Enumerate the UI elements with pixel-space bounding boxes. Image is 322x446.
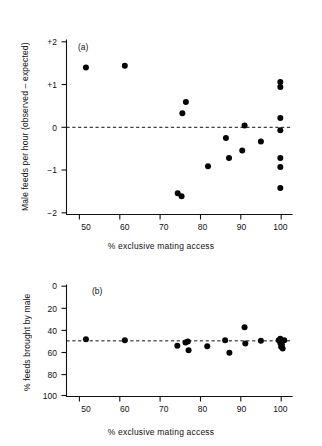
svg-text:60: 60 [120,404,130,414]
panel-a: Male feeds per hour (observed – expected… [0,0,322,255]
svg-text:20: 20 [48,304,58,314]
panel-a-y-tick-labels: +2 +1 0 −1 −2 [47,37,57,218]
data-point [174,343,180,349]
panel-b-x-axis-label: % exclusive mating access [0,427,322,437]
data-point [277,84,283,90]
data-point [185,338,191,344]
panel-b: % feeds brought by male [0,265,322,446]
panel-a-tag: (a) [78,42,89,52]
svg-text:70: 70 [159,404,169,414]
data-point [242,123,248,129]
data-point [122,63,128,69]
data-point [226,155,232,161]
svg-text:100: 100 [273,404,287,414]
svg-text:0: 0 [52,123,57,133]
data-point [205,163,211,169]
data-point [122,337,128,343]
svg-text:−2: −2 [47,208,57,218]
svg-text:−1: −1 [47,165,57,175]
data-point [242,341,248,347]
panel-b-x-tick-labels: 50 60 70 80 90 100 [81,404,287,414]
panel-a-x-axis-label: % exclusive mating access [0,241,322,251]
data-point [277,115,283,121]
data-point [83,64,89,70]
data-point [258,138,264,144]
svg-text:+1: +1 [47,80,57,90]
data-point [179,193,185,199]
svg-text:60: 60 [120,222,130,232]
data-point [223,135,229,141]
data-point [277,79,283,85]
panel-b-data-points [83,324,287,356]
panel-a-x-tick-labels: 50 60 70 80 90 100 [81,222,287,232]
svg-text:50: 50 [81,404,91,414]
data-point [277,155,283,161]
data-point [280,346,286,352]
svg-text:40: 40 [48,326,58,336]
data-point [179,110,185,116]
data-point [242,324,248,330]
svg-text:80: 80 [48,370,58,380]
svg-text:0: 0 [52,281,57,291]
svg-text:100: 100 [43,391,57,401]
svg-text:50: 50 [81,222,91,232]
panel-b-plot: 0 20 40 60 80 100 50 60 70 80 90 100 (b) [0,265,322,417]
data-point [258,338,264,344]
figure-container: Male feeds per hour (observed – expected… [0,0,322,446]
data-point [183,99,189,105]
svg-text:90: 90 [237,222,247,232]
data-point [222,337,228,343]
svg-text:80: 80 [198,404,208,414]
svg-text:90: 90 [237,404,247,414]
data-point [277,164,283,170]
data-point [281,337,287,343]
svg-text:100: 100 [273,222,287,232]
svg-text:70: 70 [159,222,169,232]
data-point [226,350,232,356]
data-point [277,127,283,133]
panel-b-y-tick-labels: 0 20 40 60 80 100 [43,281,57,400]
data-point [83,336,89,342]
data-point [186,347,192,353]
panel-a-plot: +2 +1 0 −1 −2 50 60 70 80 90 100 (a) [0,0,322,232]
svg-text:+2: +2 [47,37,57,47]
panel-a-data-points [83,63,283,199]
data-point [204,343,210,349]
data-point [239,147,245,153]
svg-text:80: 80 [198,222,208,232]
panel-b-tag: (b) [92,286,103,296]
data-point [277,185,283,191]
svg-text:60: 60 [48,348,58,358]
